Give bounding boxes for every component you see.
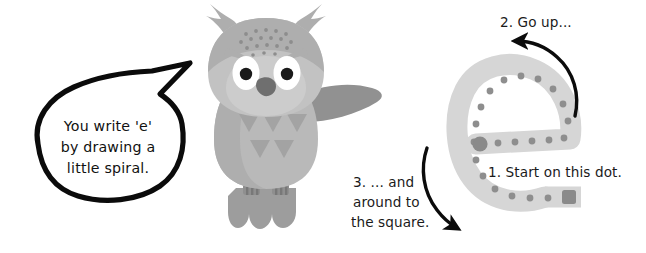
- illustration-canvas: You write 'e' by drawing a little spiral…: [0, 0, 646, 253]
- step-annotations: 2. Go up... 1. Start on this dot. 3. ...…: [0, 0, 646, 253]
- step-3-label-line-3: the square.: [351, 214, 429, 230]
- step-2-arrow-icon: [516, 41, 577, 116]
- step-2-label: 2. Go up...: [500, 14, 572, 30]
- step-3-label-line-2: around to: [353, 194, 420, 210]
- step-2-annotation: 2. Go up...: [500, 14, 577, 116]
- step-3-annotation: 3. ... and around to the square.: [351, 148, 457, 230]
- step-1-label: 1. Start on this dot.: [488, 164, 622, 180]
- step-1-annotation: 1. Start on this dot.: [488, 164, 622, 180]
- step-3-label-line-1: 3. ... and: [353, 174, 414, 190]
